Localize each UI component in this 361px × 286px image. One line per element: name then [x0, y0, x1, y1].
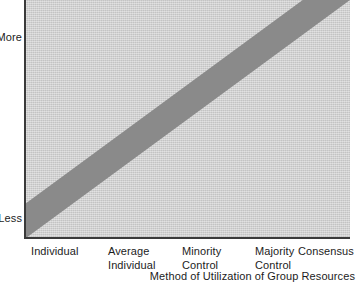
- trend-band-shape: [26, 0, 350, 238]
- chart-figure: More Less Individual Average Individual …: [0, 0, 361, 286]
- trend-band: [26, 0, 350, 238]
- y-axis-line: [24, 0, 26, 239]
- x-axis-tick-majority-control: Majority Control: [255, 244, 294, 272]
- x-axis-tick-line1: Consensus: [298, 245, 354, 257]
- x-axis-tick-minority-control: Minority Control: [182, 244, 221, 272]
- x-axis-tick-individual: Individual: [31, 244, 78, 258]
- x-axis-tick-line1: Majority: [255, 245, 294, 257]
- x-axis-title: Method of Utilization of Group Resources: [0, 270, 355, 282]
- x-axis-tick-line1: Individual: [31, 245, 78, 257]
- x-axis-tick-average-individual: Average Individual: [108, 244, 155, 272]
- y-axis-label-more: More: [0, 31, 22, 43]
- plot-area: [26, 0, 350, 238]
- y-axis-label-less: Less: [0, 212, 22, 224]
- x-axis-tick-consensus: Consensus: [298, 244, 354, 258]
- x-axis-tick-line1: Average: [108, 245, 149, 257]
- x-axis-line: [24, 237, 350, 239]
- x-axis-tick-line1: Minority: [182, 245, 221, 257]
